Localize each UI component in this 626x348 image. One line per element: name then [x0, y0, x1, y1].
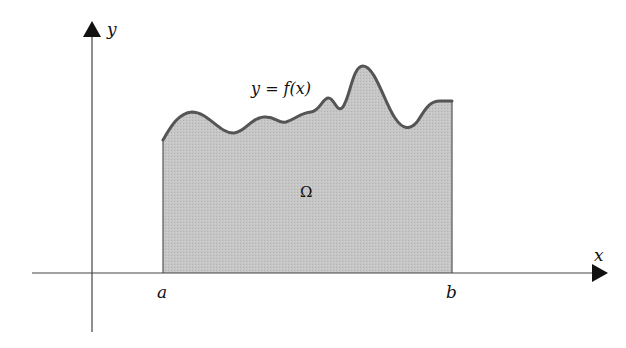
x-axis-arrow-icon	[592, 264, 608, 282]
curve-label: y = f(x)	[250, 79, 311, 98]
y-axis-arrow-icon	[83, 21, 101, 37]
interval-left-label: a	[157, 282, 167, 302]
interval-right-label: b	[446, 282, 457, 302]
area-under-curve-diagram: y x a b y = f(x) Ω	[0, 0, 626, 348]
x-axis-label: x	[594, 245, 604, 265]
region-label: Ω	[300, 183, 312, 201]
y-axis-label: y	[106, 19, 117, 39]
